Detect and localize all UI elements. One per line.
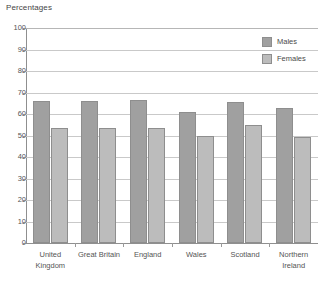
bar-males[interactable] xyxy=(81,101,98,243)
bar-males[interactable] xyxy=(33,101,50,243)
x-tick-mark xyxy=(75,243,76,247)
x-tick-label: UnitedKingdom xyxy=(26,249,75,271)
bar-chart: Percentages 0102030405060708090100 Unite… xyxy=(0,0,329,284)
bar-males[interactable] xyxy=(130,100,147,243)
legend-label: Females xyxy=(277,54,306,63)
x-tick-label: England xyxy=(123,249,172,260)
bar-females[interactable] xyxy=(245,125,262,243)
x-tick-label-line1: Great Britain xyxy=(78,250,120,259)
bar-males[interactable] xyxy=(276,108,293,243)
x-tick-label-line2: Kingdom xyxy=(26,260,75,271)
bar-males[interactable] xyxy=(227,102,244,243)
legend-swatch-icon xyxy=(262,54,272,64)
legend-swatch-icon xyxy=(262,37,272,47)
x-tick-label: NorthernIreland xyxy=(269,249,318,271)
bar-group xyxy=(26,28,75,243)
x-tick-label: Great Britain xyxy=(75,249,124,260)
x-tick-label-line1: Scotland xyxy=(230,250,259,259)
x-tick-mark xyxy=(221,243,222,247)
bar-females[interactable] xyxy=(99,128,116,243)
bar-group xyxy=(172,28,221,243)
bar-males[interactable] xyxy=(179,112,196,243)
x-tick-mark xyxy=(269,243,270,247)
x-tick-label: Scotland xyxy=(221,249,270,260)
x-tick-label-line1: United xyxy=(39,250,61,259)
x-tick-label-line2: Ireland xyxy=(269,260,318,271)
x-tick-mark xyxy=(123,243,124,247)
bar-group xyxy=(123,28,172,243)
x-tick-mark xyxy=(172,243,173,247)
bar-females[interactable] xyxy=(197,136,214,244)
legend-label: Males xyxy=(277,37,297,46)
x-tick-label-line1: Wales xyxy=(186,250,207,259)
legend-item[interactable]: Males xyxy=(262,33,324,50)
bar-females[interactable] xyxy=(51,128,68,243)
y-axis: 0102030405060708090100 xyxy=(0,0,26,284)
bar-females[interactable] xyxy=(148,128,165,243)
chart-legend: MalesFemales xyxy=(262,33,324,67)
legend-item[interactable]: Females xyxy=(262,50,324,67)
x-tick-label: Wales xyxy=(172,249,221,260)
bar-group xyxy=(75,28,124,243)
x-tick-label-line1: Northern xyxy=(279,250,308,259)
x-tick-label-line1: England xyxy=(134,250,162,259)
bar-females[interactable] xyxy=(294,137,311,243)
